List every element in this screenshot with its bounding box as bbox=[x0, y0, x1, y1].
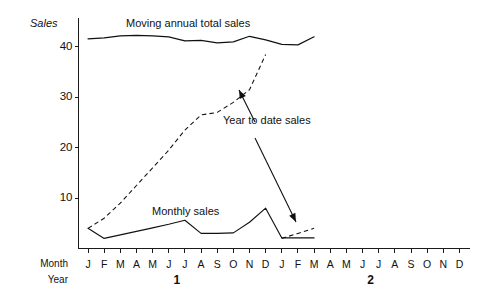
series-line-moving-annual-total bbox=[88, 35, 314, 45]
chart-axes bbox=[75, 18, 471, 253]
x-axis-month-label: J bbox=[177, 259, 193, 270]
x-axis-month-label: D bbox=[258, 259, 274, 270]
x-axis-month-label: M bbox=[112, 259, 128, 270]
x-axis-month-label: M bbox=[338, 259, 354, 270]
x-axis-month-label: A bbox=[193, 259, 209, 270]
series-line-year-to-date bbox=[88, 54, 266, 228]
y-axis-title: Sales bbox=[30, 18, 58, 29]
x-axis-month-label: J bbox=[80, 259, 96, 270]
y-axis-tick-label: 10 bbox=[47, 192, 73, 204]
x-axis-month-label: J bbox=[371, 259, 387, 270]
x-axis-month-label: O bbox=[419, 259, 435, 270]
x-axis-month-label: S bbox=[403, 259, 419, 270]
x-axis-month-label: M bbox=[306, 259, 322, 270]
x-axis-row-label-month: Month bbox=[14, 259, 68, 269]
series-line-year-to-date-year2 bbox=[282, 228, 314, 238]
x-axis-month-label: A bbox=[387, 259, 403, 270]
x-axis-month-label: A bbox=[128, 259, 144, 270]
x-axis-month-label: J bbox=[355, 259, 371, 270]
year-to-date-callout-head bbox=[239, 90, 246, 99]
x-axis-year-label: 2 bbox=[356, 274, 386, 286]
x-axis-month-label: O bbox=[225, 259, 241, 270]
x-axis-month-label: A bbox=[322, 259, 338, 270]
x-axis-row-label-year: Year bbox=[14, 275, 68, 285]
monthly-sales-callout-shaft bbox=[255, 138, 296, 222]
x-axis-month-label: D bbox=[451, 259, 467, 270]
x-axis-month-label: J bbox=[274, 259, 290, 270]
y-axis-tick-label: 20 bbox=[47, 142, 73, 154]
x-axis-month-label: N bbox=[435, 259, 451, 270]
y-axis-tick-label: 40 bbox=[47, 41, 73, 53]
monthly-sales-callout-head bbox=[289, 213, 296, 222]
series-label-monthly-sales: Monthly sales bbox=[152, 206, 219, 217]
x-axis-month-label: J bbox=[161, 259, 177, 270]
x-axis-month-label: F bbox=[290, 259, 306, 270]
x-axis-month-label: M bbox=[145, 259, 161, 270]
chart-container: Sales 10203040 Month Year JFMAMJJASONDJF… bbox=[0, 0, 492, 302]
x-axis-month-label: S bbox=[209, 259, 225, 270]
chart-annotations bbox=[239, 90, 296, 222]
x-axis-year-label: 1 bbox=[162, 274, 192, 286]
x-axis-month-label: N bbox=[242, 259, 258, 270]
x-axis-month-label: F bbox=[96, 259, 112, 270]
chart-plot-area bbox=[0, 0, 492, 302]
series-label-moving-annual-total: Moving annual total sales bbox=[126, 18, 250, 29]
y-axis-tick-label: 30 bbox=[47, 91, 73, 103]
series-label-year-to-date: Year to date sales bbox=[223, 115, 311, 126]
